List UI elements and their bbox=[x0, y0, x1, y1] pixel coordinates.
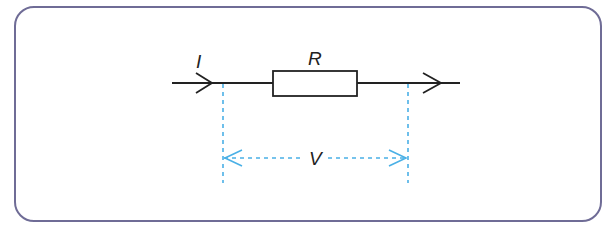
resistor-label: R bbox=[308, 48, 322, 69]
resistor-symbol bbox=[273, 71, 357, 96]
circuit-diagram: I R V bbox=[0, 0, 608, 231]
current-label: I bbox=[196, 51, 202, 72]
voltage-label: V bbox=[309, 148, 324, 169]
